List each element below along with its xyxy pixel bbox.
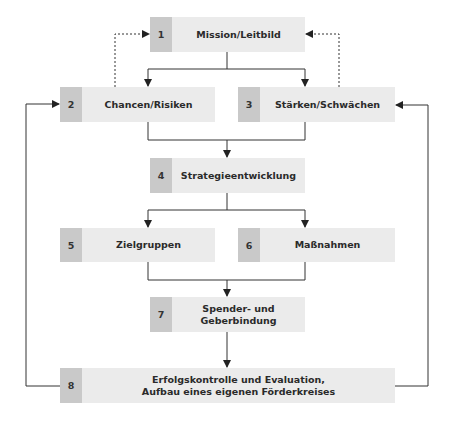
box-donor-retention: 7 Spender- und Geberbindung [150,297,305,332]
step-number: 7 [150,297,172,332]
box-target-groups: 5 Zielgruppen [60,228,215,262]
step-number: 6 [238,228,260,262]
step-label: Zielgruppen [82,228,215,262]
step-label: Spender- und Geberbindung [172,297,305,332]
box-evaluation: 8 Erfolgskontrolle und Evaluation, Aufba… [60,368,395,403]
step-number: 4 [150,158,172,193]
step-label: Chancen/Risiken [82,87,215,122]
step-label: Strategieentwicklung [172,158,305,193]
step-label: Erfolgskontrolle und Evaluation, Aufbau … [82,368,395,403]
step-number: 2 [60,87,82,122]
step-label: Stärken/Schwächen [260,87,395,122]
step-label: Maßnahmen [260,228,395,262]
box-strengths-weaknesses: 3 Stärken/Schwächen [238,87,395,122]
connector-lines [0,0,449,423]
step-number: 8 [60,368,82,403]
step-number: 1 [150,17,172,52]
box-mission: 1 Mission/Leitbild [150,17,305,52]
box-measures: 6 Maßnahmen [238,228,395,262]
step-number: 3 [238,87,260,122]
box-strategy: 4 Strategieentwicklung [150,158,305,193]
box-opportunities-risks: 2 Chancen/Risiken [60,87,215,122]
step-number: 5 [60,228,82,262]
step-label: Mission/Leitbild [172,17,305,52]
